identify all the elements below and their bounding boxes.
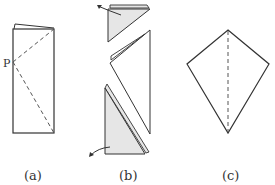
caption-c: (c) — [222, 168, 239, 183]
caption-a: (a) — [24, 168, 42, 183]
figure-a: P (a) — [3, 24, 54, 183]
figure-c: (c) — [187, 30, 269, 183]
figure-b: (b) — [89, 5, 150, 183]
top-strip — [110, 5, 149, 8]
point-p-label: P — [3, 57, 11, 70]
caption-b: (b) — [119, 168, 137, 183]
top-flap-edge — [14, 24, 54, 29]
origami-diagram: P (a) (b) (c) — [0, 0, 275, 185]
folded-rectangle — [13, 29, 54, 133]
